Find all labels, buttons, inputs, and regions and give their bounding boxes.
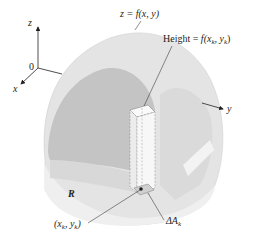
region-label: R [67,188,75,199]
surface-leader [135,21,141,30]
origin-label: 0 [29,61,34,72]
double-integral-volume-diagram: z 0 x y z = f(x, y) Height = f(xk, yk) R… [0,0,253,238]
volume-column [130,105,155,195]
z-axis-label: z [27,17,32,28]
point-label: (xk, yk) [54,218,81,231]
x-axis-label: x [12,83,18,94]
y-axis-label: y [226,103,232,114]
surface-label: z = f(x, y) [119,8,160,20]
